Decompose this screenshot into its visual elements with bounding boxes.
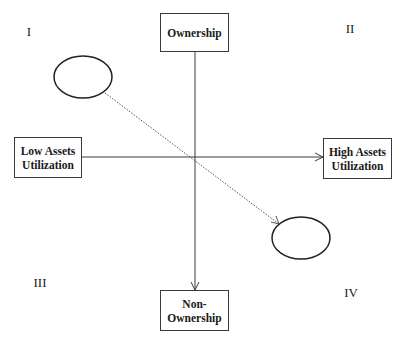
high-assets-utilization-box: High Assets Utilization: [323, 138, 392, 179]
low-assets-label-line2: Utilization: [21, 158, 76, 172]
low-assets-label-line1: Low Assets: [21, 144, 76, 158]
quadrant-label-4: IV: [344, 285, 358, 301]
start-ellipse: [54, 56, 112, 98]
non-ownership-label-line2: Ownership: [167, 311, 221, 325]
non-ownership-box: Non- Ownership: [160, 290, 229, 331]
quadrant-label-1: I: [27, 24, 31, 40]
ownership-label: Ownership: [167, 26, 221, 40]
quadrant-label-2: II: [346, 21, 355, 37]
diagram-canvas: Ownership Non- Ownership Low Assets Util…: [0, 0, 404, 344]
ownership-box: Ownership: [160, 13, 229, 52]
end-ellipse: [272, 217, 330, 259]
quadrant-label-3: III: [34, 275, 47, 291]
non-ownership-label-line1: Non-: [167, 297, 221, 311]
high-assets-label-line2: Utilization: [329, 159, 386, 173]
high-assets-label-line1: High Assets: [329, 145, 386, 159]
dotted-transition-arrow: [105, 93, 279, 224]
low-assets-utilization-box: Low Assets Utilization: [14, 137, 82, 178]
